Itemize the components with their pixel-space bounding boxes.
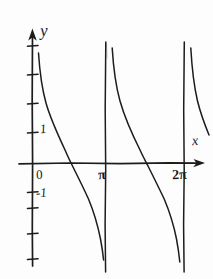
plot-canvas — [0, 0, 213, 279]
origin-label-zero: 0 — [36, 168, 43, 181]
x-tick-label-two-pi: 2π — [172, 168, 187, 183]
cot-branch-first — [39, 53, 104, 260]
y-tick-neg-4 — [28, 259, 39, 260]
pencil-stray-mark — [107, 44, 108, 58]
y-tick-label-negative-one: -1 — [36, 186, 48, 199]
asymptote-two-pi-line — [184, 42, 185, 272]
y-tick-2 — [28, 103, 39, 104]
asymptote-pi-line — [105, 42, 106, 272]
cot-branch-second — [112, 48, 180, 262]
y-tick-1 — [28, 132, 39, 133]
x-axis-label: x — [191, 134, 198, 148]
y-tick-3 — [28, 74, 39, 75]
x-tick-label-pi: π — [98, 168, 106, 182]
y-axis-label: y — [39, 22, 48, 39]
y-tick-label-one: 1 — [40, 122, 47, 135]
cot-branch-third — [191, 48, 209, 135]
x-axis-line — [19, 163, 197, 164]
y-tick-neg-2 — [28, 208, 39, 209]
y-tick-neg-3 — [28, 233, 39, 234]
y-tick-4 — [28, 46, 39, 47]
cotangent-graph-figure: y x 1 0 -1 π 2π — [0, 0, 213, 279]
